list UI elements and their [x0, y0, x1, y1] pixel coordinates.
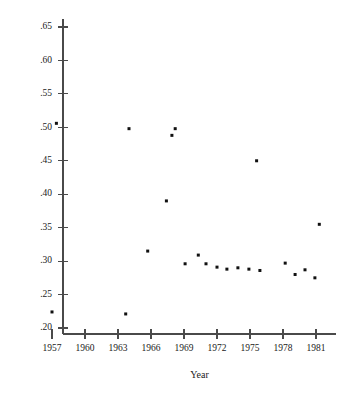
- data-point: [170, 134, 173, 137]
- x-axis-tick-label: 1963: [109, 343, 128, 353]
- data-point: [205, 262, 208, 265]
- y-axis-tick-label: .20: [40, 322, 52, 332]
- y-axis-tick-label: .45: [40, 155, 52, 165]
- data-point: [304, 268, 307, 271]
- data-point: [318, 223, 321, 226]
- data-point: [184, 262, 187, 265]
- data-point: [124, 312, 127, 315]
- data-point: [128, 127, 131, 130]
- y-axis-tick-label: .40: [40, 188, 52, 198]
- data-point: [284, 262, 287, 265]
- x-axis-tick-label: 1966: [142, 343, 161, 353]
- x-axis-title: Year: [190, 369, 209, 380]
- x-axis: 195719601963196619691972197519781981: [43, 329, 337, 353]
- y-axis-tick-label: .50: [40, 122, 52, 132]
- data-point: [247, 268, 250, 271]
- data-point: [165, 199, 168, 202]
- data-point: [55, 122, 58, 125]
- data-point: [51, 310, 54, 313]
- data-point: [146, 250, 149, 253]
- data-point: [236, 266, 239, 269]
- y-axis-tick-label: .60: [40, 55, 52, 65]
- y-axis-tick-label: .65: [40, 21, 52, 31]
- data-point: [216, 266, 219, 269]
- x-axis-tick-label: 1972: [208, 343, 227, 353]
- x-axis-tick-label: 1978: [274, 343, 293, 353]
- x-axis-tick-label: 1957: [43, 343, 62, 353]
- y-axis-tick-label: .55: [40, 88, 52, 98]
- data-point: [197, 254, 200, 257]
- data-point: [313, 276, 316, 279]
- x-axis-tick-label: 1981: [307, 343, 326, 353]
- y-axis-tick-label: .35: [40, 222, 52, 232]
- y-axis: .20.25.30.35.40.45.50.55.60.65: [40, 19, 68, 334]
- y-axis-tick-label: .25: [40, 289, 52, 299]
- data-point: [225, 268, 228, 271]
- y-axis-tick-label: .30: [40, 255, 52, 265]
- x-axis-tick-label: 1975: [241, 343, 260, 353]
- x-axis-tick-label: 1960: [76, 343, 95, 353]
- x-axis-tick-label: 1969: [175, 343, 194, 353]
- data-points-layer: [51, 122, 321, 316]
- chart-page: .20.25.30.35.40.45.50.55.60.65 195719601…: [0, 0, 340, 396]
- data-point: [255, 159, 258, 162]
- data-point: [294, 273, 297, 276]
- scatter-plot: .20.25.30.35.40.45.50.55.60.65 195719601…: [0, 0, 340, 396]
- data-point: [258, 269, 261, 272]
- data-point: [174, 127, 177, 130]
